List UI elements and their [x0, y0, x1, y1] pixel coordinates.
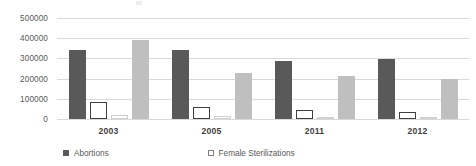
bar[interactable] [275, 61, 292, 119]
y-axis-tick-label: 400000 [20, 34, 48, 43]
legend-label: Abortions [74, 149, 109, 158]
y-axis-tick-label: 200000 [20, 74, 48, 83]
bar[interactable] [338, 76, 355, 119]
bar-group-bars [69, 18, 149, 119]
y-axis-tick-label: 300000 [20, 54, 48, 63]
legend-item[interactable]: Female Sterilizations [208, 149, 295, 158]
bar[interactable] [317, 117, 334, 119]
x-axis-tick-label: 2011 [263, 121, 366, 139]
bar-group-bars [275, 18, 355, 119]
bar-group [366, 18, 469, 119]
y-axis-tick-label: 500000 [20, 14, 48, 23]
bar[interactable] [399, 112, 416, 119]
legend-label: Female Sterilizations [219, 149, 295, 158]
bar-chart: 5000004000003000002000001000000 20032005… [0, 0, 476, 166]
x-axis-tick-label: 2005 [160, 121, 263, 139]
x-axis: 2003200520112012 [57, 121, 469, 139]
legend-item[interactable]: Abortions [63, 149, 109, 158]
bar-group-bars [378, 18, 458, 119]
y-axis-tick-label: 100000 [20, 94, 48, 103]
bar[interactable] [296, 110, 313, 119]
bar[interactable] [420, 117, 437, 119]
legend-swatch-icon [63, 150, 69, 156]
legend-swatch-icon [208, 150, 214, 156]
bar[interactable] [132, 40, 149, 119]
top-artifact-mark [136, 1, 142, 5]
bar[interactable] [111, 115, 128, 119]
bar[interactable] [69, 50, 86, 119]
bar[interactable] [378, 59, 395, 119]
bar[interactable] [172, 50, 189, 119]
bar-group [263, 18, 366, 119]
bar-group-bars [172, 18, 252, 119]
bar-group [160, 18, 263, 119]
bar[interactable] [441, 79, 458, 119]
y-axis: 5000004000003000002000001000000 [0, 0, 54, 166]
gridline [57, 119, 469, 120]
bar[interactable] [193, 107, 210, 119]
x-axis-tick-label: 2012 [366, 121, 469, 139]
chart-legend: AbortionsFemale Sterilizations [57, 145, 476, 161]
y-axis-tick-label: 0 [43, 115, 48, 124]
bar-groups [57, 18, 469, 119]
bar[interactable] [214, 116, 231, 119]
bar[interactable] [90, 102, 107, 119]
bar[interactable] [235, 73, 252, 119]
bar-group [57, 18, 160, 119]
x-axis-tick-label: 2003 [57, 121, 160, 139]
